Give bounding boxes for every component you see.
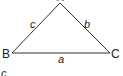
side-c-label: c — [30, 18, 36, 30]
triangle-shape — [12, 3, 110, 53]
side-a-label: a — [58, 53, 64, 65]
side-b-label: b — [84, 18, 90, 30]
vertex-b-label: B — [2, 47, 10, 61]
caption-label: c — [1, 67, 7, 76]
triangle-diagram: A B C a b c c — [0, 0, 123, 76]
vertex-a-label: A — [57, 0, 64, 3]
vertex-c-label: C — [111, 47, 120, 61]
